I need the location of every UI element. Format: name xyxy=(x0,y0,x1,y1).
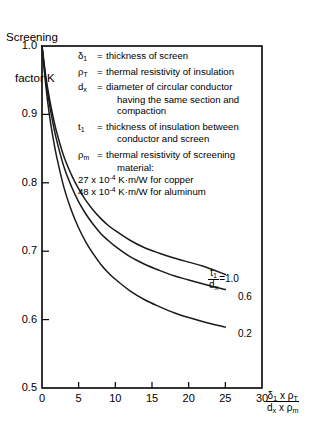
curve-label-0-2: 0.2 xyxy=(238,329,252,340)
y-tick-marks xyxy=(42,114,49,319)
curve-label-ratio-1-0: t1 dx =1.0 xyxy=(208,268,239,290)
equals-sign: = xyxy=(97,149,106,160)
x-tick-label: 5 xyxy=(65,393,93,404)
copper-exponent: -4 xyxy=(109,174,115,181)
curve-value-1-0: =1.0 xyxy=(219,273,239,284)
definition-cont-dx-1: having the same section and xyxy=(117,94,268,105)
aluminum-coefficient: 48 xyxy=(78,186,89,197)
ratio-fraction: t1 dx xyxy=(208,268,219,290)
y-tick-label: 0.9 xyxy=(0,108,37,119)
x-axis-title: δ1 x ρT dx x ρm xyxy=(266,390,299,413)
material-line-aluminum: 48 x 10-4 K·m/W for aluminum xyxy=(78,186,268,197)
definition-row-rhom: ρm = thermal resistivity of screening xyxy=(78,149,268,160)
copper-coefficient: 27 xyxy=(78,174,89,185)
equals-sign: = xyxy=(97,66,106,77)
equals-sign: = xyxy=(97,81,106,92)
definition-text-rhom: thermal resistivity of screening xyxy=(106,149,268,160)
symbol-rho-t: ρT xyxy=(78,66,97,77)
aluminum-unit: K·m/W for aluminum xyxy=(118,186,205,197)
definition-text-dx: diameter of circular conductor xyxy=(106,81,268,92)
definition-cont-dx-2: compaction xyxy=(117,105,268,116)
material-line-copper: 27 x 10-4 K·m/W for copper xyxy=(78,174,268,185)
definition-text-rhoT: thermal resistivity of insulation xyxy=(106,66,268,77)
y-tick-label: 0.5 xyxy=(0,382,37,393)
ratio-numerator: t1 xyxy=(208,268,219,280)
x-tick-label: 25 xyxy=(211,393,239,404)
copper-unit: K·m/W for copper xyxy=(118,174,193,185)
multiply-sign: x 10 xyxy=(91,174,109,185)
definition-row-dx: dx = diameter of circular conductor xyxy=(78,81,268,92)
definition-row-rhoT: ρT = thermal resistivity of insulation xyxy=(78,66,268,77)
definition-cont-rhom-1: material: xyxy=(117,162,268,173)
x-tick-label: 10 xyxy=(101,393,129,404)
x-tick-label: 15 xyxy=(138,393,166,404)
x-tick-label: 20 xyxy=(175,393,203,404)
x-tick-label: 0 xyxy=(28,393,56,404)
y-tick-label: 0.8 xyxy=(0,177,37,188)
x-tick-marks xyxy=(79,382,226,388)
symbol-t1: t1 xyxy=(78,121,97,132)
ratio-denominator: dx xyxy=(208,280,219,291)
equals-sign: = xyxy=(97,50,106,61)
aluminum-exponent: -4 xyxy=(109,186,115,193)
y-tick-label: 1.0 xyxy=(0,40,37,51)
x-axis-numerator: δ1 x ρT xyxy=(266,390,299,402)
multiply-sign: x 10 xyxy=(91,186,109,197)
symbol-dx: dx xyxy=(78,81,97,92)
definition-cont-t1-1: conductor and screen xyxy=(117,133,268,144)
definition-row-t1: t1 = thickness of insulation between xyxy=(78,121,268,132)
definitions-block: δ1 = thickness of screen ρT = thermal re… xyxy=(78,50,268,197)
definition-row-delta1: δ1 = thickness of screen xyxy=(78,50,268,61)
chart-container: Screening factor K 0510152025300.50.60.7… xyxy=(0,0,327,442)
y-tick-label: 0.7 xyxy=(0,245,37,256)
x-axis-denominator: dx x ρm xyxy=(266,402,299,413)
definition-text-delta1: thickness of screen xyxy=(106,50,268,61)
symbol-rho-m: ρm xyxy=(78,149,97,160)
x-axis-fraction: δ1 x ρT dx x ρm xyxy=(266,390,299,413)
y-tick-label: 0.6 xyxy=(0,314,37,325)
equals-sign: = xyxy=(97,121,106,132)
curve-label-0-6: 0.6 xyxy=(238,292,252,303)
symbol-delta1: δ1 xyxy=(78,50,97,61)
definition-text-t1: thickness of insulation between xyxy=(106,121,268,132)
